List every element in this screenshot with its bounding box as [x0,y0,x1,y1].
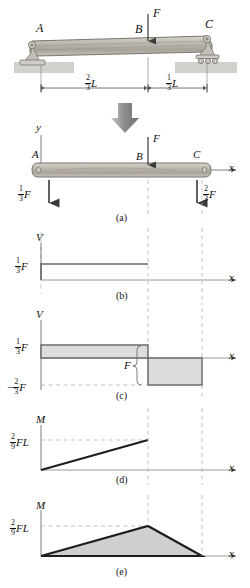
fbd-pin-eye-left [36,167,40,172]
label-axis-x-b: x [229,271,234,283]
transition-arrow-icon [111,103,139,133]
label-value-neg-2-3-F-c: − 2 3 F [7,378,26,396]
panel-b-shear-diagram [41,228,236,305]
label-axis-V-b: V [36,231,43,243]
label-axis-M-d: M [36,413,45,425]
label-point-C-a: C [193,148,200,160]
ground-right [175,62,237,73]
dimension-label-2-3-L: 2 3 L [85,74,97,92]
label-load-F-a: F [153,132,160,144]
fbd-pin-eye-right [202,167,206,172]
fbd-beam-body [32,163,211,177]
label-point-A-a: A [32,148,39,160]
panel-c-shear-diagram [41,308,236,400]
label-axis-y-a: y [36,121,41,133]
label-axis-M-e: M [36,499,45,511]
label-axis-V-c: V [36,308,43,320]
panel-c-positive-shear-block [41,345,148,358]
label-axis-x-d: x [229,461,234,473]
beam-body [30,36,212,56]
label-jump-F-c: F [124,359,131,371]
panel-e-moment-area [41,526,202,556]
label-point-A-top: A [36,21,43,36]
label-reaction-C: 2 3 F [203,185,216,203]
label-reaction-A: 1 3 F [18,185,31,203]
label-axis-x-c: x [229,349,234,361]
label-axis-x-a: x [229,161,234,173]
label-point-C-top: C [205,17,213,32]
top-pictorial-view [14,14,237,93]
panel-tag-b: (b) [116,290,128,301]
panel-a-free-body-diagram [32,135,236,218]
panel-tag-e: (e) [116,566,127,577]
label-value-1-3-F-b: 1 3 F [15,257,28,275]
label-axis-x-e: x [229,547,234,559]
panel-tag-c: (c) [116,390,127,401]
label-load-F-top: F [153,6,160,21]
panel-e-moment-diagram [41,495,236,556]
label-value-1-3-F-c: 1 3 F [15,338,28,356]
panel-tag-a: (a) [116,212,127,223]
label-value-2-9-FL-e: 2 9 FL [10,519,29,537]
label-value-2-9-FL-d: 2 9 FL [10,433,29,451]
panel-d-moment-curve [41,440,148,470]
panel-tag-d: (d) [116,474,128,485]
beam-shear-moment-figure: A B C F 2 3 L 1 3 L y x A B C F 1 3 F 2 … [0,0,250,588]
panel-d-moment-diagram [41,408,236,485]
label-point-B-top: B [135,22,142,37]
panel-c-negative-shear-block [148,358,202,385]
panel-b-shear-curve [41,264,148,280]
label-point-B-a: B [136,150,143,162]
dimension-label-1-3-L: 1 3 L [166,74,178,92]
